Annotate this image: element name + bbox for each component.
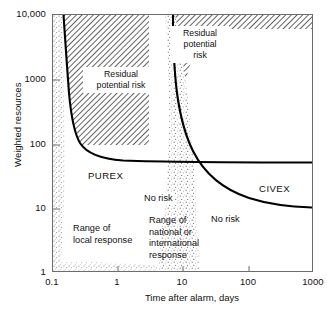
annotation-residual-risk-right: Residual potential risk	[171, 26, 229, 63]
x-tick-label-100: 100	[218, 277, 278, 287]
annotation-no-risk-left: No risk	[142, 193, 175, 205]
x-tick-label-0.1: 0.1	[22, 277, 82, 287]
series-label-civex: CIVEX	[258, 183, 291, 194]
x-tick-label-10: 10	[152, 277, 212, 287]
plot-area: Residual potential risk Residual potenti…	[52, 14, 313, 272]
x-tick-label-1: 1	[87, 277, 147, 287]
y-tick-label-10000: 10,000	[0, 9, 46, 19]
x-tick-label-1000: 1000	[283, 277, 327, 287]
x-axis-title: Time after alarm, days	[92, 293, 292, 303]
annotation-range-local-response: Range of local response	[73, 223, 153, 246]
annotation-residual-risk-left: Residual potential risk	[83, 67, 159, 93]
chart-figure: 10,000 1000 100 10 1 0.1 1 10 100 1000 W…	[0, 0, 327, 312]
series-label-purex: PUREX	[87, 170, 124, 181]
annotation-range-national-response: Range of national or international respo…	[149, 215, 225, 261]
y-axis-title: Weighted resources	[13, 50, 23, 200]
y-tick-label-1: 1	[0, 267, 46, 277]
y-tick-label-10: 10	[0, 203, 46, 213]
